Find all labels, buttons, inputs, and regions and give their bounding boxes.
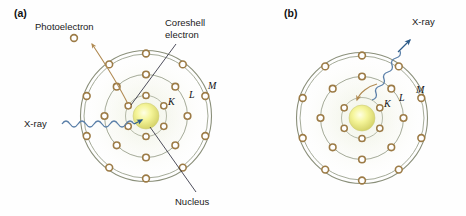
panel-a: (a): [14, 7, 217, 207]
panel-b: (b): [284, 7, 435, 184]
panel-a-coreshell-label-line1: Coreshell: [165, 17, 205, 28]
panel-b-l-label: L: [398, 92, 405, 103]
panel-b-xray-label: X-ray: [412, 16, 435, 27]
panel-a-label: (a): [14, 7, 27, 19]
panel-b-nucleus: [349, 105, 375, 131]
panel-a-coreshell-label-line2: electron: [165, 29, 199, 40]
panel-a-ejected-photoelectron: [71, 35, 78, 42]
panel-b-xray-arrowhead: [398, 40, 410, 52]
panel-b-m-label: M: [415, 84, 425, 95]
panel-b-k-label: K: [383, 98, 392, 109]
panel-b-label: (b): [284, 7, 297, 19]
panel-a-k-label: K: [167, 96, 176, 107]
panel-a-l-label: L: [188, 89, 195, 100]
atom-xray-diagram: (a): [0, 0, 466, 216]
figure-canvas: (a): [0, 0, 466, 216]
panel-a-xray-label: X-ray: [24, 118, 47, 129]
panel-a-m-label: M: [207, 80, 217, 91]
panel-a-photoelectron-label: Photoelectron: [35, 21, 94, 32]
panel-a-nucleus: [133, 103, 159, 129]
panel-a-nucleus-label: Nucleus: [175, 196, 210, 207]
